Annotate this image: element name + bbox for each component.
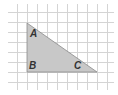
vertex-label-a: A [29, 28, 37, 39]
vertex-label-c: C [74, 60, 82, 71]
right-triangle [27, 23, 97, 72]
vertex-label-b: B [29, 60, 36, 71]
triangle-diagram: A B C [0, 0, 118, 95]
